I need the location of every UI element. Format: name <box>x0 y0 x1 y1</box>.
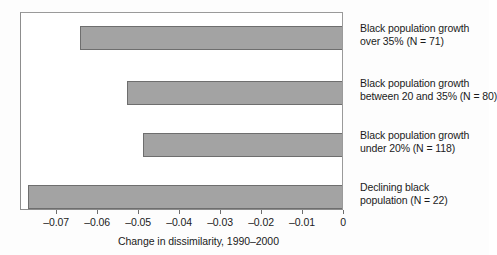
category-label-line: over 35% (N = 71) <box>360 35 469 48</box>
x-tick-mark <box>56 210 57 214</box>
category-label-line: Black population growth <box>360 129 469 142</box>
bars-layer <box>21 13 342 209</box>
x-tick-label: –0.07 <box>43 216 69 228</box>
category-label: Declining blackpopulation (N = 22) <box>360 181 448 206</box>
x-axis-title: Change in dissimilarity, 1990–2000 <box>118 235 279 247</box>
category-label-line: between 20 and 35% (N = 80) <box>360 90 497 103</box>
bar <box>127 81 342 105</box>
category-label: Black population growthover 35% (N = 71) <box>360 22 469 47</box>
category-label-line: under 20% (N = 118) <box>360 142 469 155</box>
x-tick-mark <box>302 210 303 214</box>
category-label: Black population growthunder 20% (N = 11… <box>360 129 469 154</box>
x-tick-label: –0.01 <box>289 216 315 228</box>
category-label: Black population growthbetween 20 and 35… <box>360 77 497 102</box>
x-tick-mark <box>138 210 139 214</box>
category-label-line: population (N = 22) <box>360 194 448 207</box>
bar <box>143 133 342 157</box>
x-tick-mark <box>343 210 344 214</box>
x-tick-label: –0.03 <box>207 216 233 228</box>
x-tick-mark <box>220 210 221 214</box>
x-tick-label: –0.06 <box>84 216 110 228</box>
x-tick-label: –0.04 <box>166 216 192 228</box>
x-tick-mark <box>179 210 180 214</box>
category-label-line: Declining black <box>360 181 448 194</box>
x-tick-mark <box>97 210 98 214</box>
plot-area <box>20 12 343 210</box>
category-label-line: Black population growth <box>360 77 497 90</box>
x-tick-label: 0 <box>340 216 346 228</box>
x-tick-mark <box>261 210 262 214</box>
x-tick-label: –0.02 <box>248 216 274 228</box>
bar <box>80 26 342 50</box>
bar <box>28 185 342 209</box>
category-label-line: Black population growth <box>360 22 469 35</box>
x-tick-label: –0.05 <box>125 216 151 228</box>
